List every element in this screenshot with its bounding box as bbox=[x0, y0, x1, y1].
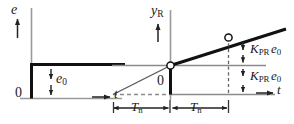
marker-kink-point bbox=[167, 62, 174, 69]
left-x-axis-label: t bbox=[114, 87, 118, 100]
left-origin-label: 0 bbox=[15, 86, 22, 100]
left-y-axis-label: e bbox=[11, 3, 17, 17]
step-curve bbox=[32, 65, 126, 99]
right-panel-controller-output bbox=[112, 10, 286, 113]
left-panel-error-signal bbox=[18, 8, 126, 99]
diagram-canvas bbox=[0, 0, 294, 124]
tn-right-label: Tn bbox=[190, 100, 202, 115]
e0-annotation-label: e0 bbox=[56, 72, 67, 88]
right-origin-label: 0 bbox=[157, 74, 164, 88]
kpr-e0-upper-label: KPRe0 bbox=[250, 42, 281, 57]
figure-root: e 0 e0 t yR 0 KPRe0 KPRe0 Tn Tn t bbox=[0, 0, 294, 124]
tn-left-label: Tn bbox=[131, 100, 143, 115]
marker-one-tn-point bbox=[225, 34, 232, 41]
right-x-axis-label: t bbox=[277, 83, 281, 96]
right-y-axis-label: yR bbox=[151, 4, 164, 20]
